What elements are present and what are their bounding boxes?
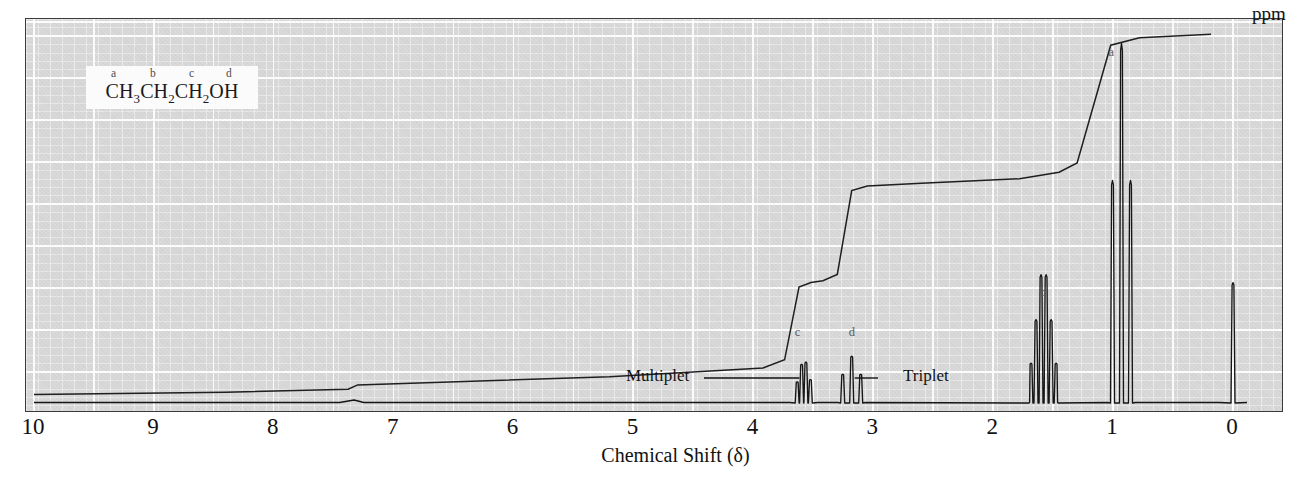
molecule-letter-c: c <box>189 68 194 80</box>
formula-seg-3: CH <box>175 80 203 102</box>
x-tick-4: 4 <box>732 414 772 440</box>
peak-label-d: d <box>849 325 855 340</box>
x-tick-10: 10 <box>13 414 53 440</box>
x-tick-3: 3 <box>852 414 892 440</box>
molecule-letter-a: a <box>111 68 116 80</box>
annotation-triplet: Triplet <box>903 366 949 386</box>
molecule-letter-d: d <box>226 68 232 80</box>
x-axis-title-wrap: Chemical Shift (δ) <box>0 444 1311 467</box>
x-tick-8: 8 <box>253 414 293 440</box>
formula-seg-2: CH <box>140 80 168 102</box>
x-axis-title: Chemical Shift (δ) <box>601 444 749 466</box>
x-tick-9: 9 <box>133 414 173 440</box>
formula-seg-4: OH <box>209 80 238 102</box>
spectrum-plot-area: a b c d Multiplet Triplet a b c d CH3CH2… <box>25 18 1283 412</box>
nmr-spectrum-figure: a b c d Multiplet Triplet a b c d CH3CH2… <box>0 0 1311 496</box>
x-axis-tick-labels: 109876543210 <box>0 414 1311 444</box>
molecule-assignment-letters: a b c d <box>96 68 248 81</box>
molecule-letter-b: b <box>150 68 156 80</box>
peak-label-b: b <box>1041 285 1047 300</box>
molecule-structure-inset: a b c d CH3CH2CH2OH <box>86 66 258 109</box>
formula-sub-2: 2 <box>168 91 175 106</box>
annotation-multiplet: Multiplet <box>626 366 689 386</box>
x-tick-2: 2 <box>972 414 1012 440</box>
x-tick-6: 6 <box>493 414 533 440</box>
formula-seg-1: CH <box>106 80 134 102</box>
molecule-formula: CH3CH2CH2OH <box>96 81 248 105</box>
peak-label-c: c <box>795 325 801 340</box>
x-axis-unit-label: ppm <box>1252 3 1286 25</box>
x-tick-5: 5 <box>613 414 653 440</box>
x-tick-1: 1 <box>1092 414 1132 440</box>
peak-label-a: a <box>1108 45 1114 60</box>
x-tick-7: 7 <box>373 414 413 440</box>
x-tick-0: 0 <box>1212 414 1252 440</box>
